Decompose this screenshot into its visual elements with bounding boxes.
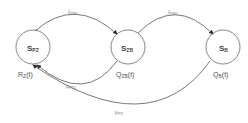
state-diagram: SPZ SZB SB RZ(t) QZB(t) QB(t) λZB1 λZB2 … [0,0,248,123]
transition-arc-sb-spz [33,61,210,104]
rate-label-zb1: λZB1 [68,9,79,16]
rate-label-pz: μPZ [115,109,124,116]
state-label-sb: SB [219,44,228,53]
transition-arc-szb-spz [37,61,117,84]
output-label-sb: QB(t) [213,71,228,79]
transition-arc-szb-sb [138,15,213,34]
rate-label-zb2: λZB2 [168,9,179,16]
state-label-spz: SPZ [27,44,39,53]
transition-arc-spz-szb [35,14,117,34]
state-label-szb: SZB [121,44,133,53]
output-label-szb: QZB(t) [116,71,134,79]
output-label-spz: RZ(t) [18,71,33,79]
rate-label-pz1: μPZ1 [66,83,77,90]
